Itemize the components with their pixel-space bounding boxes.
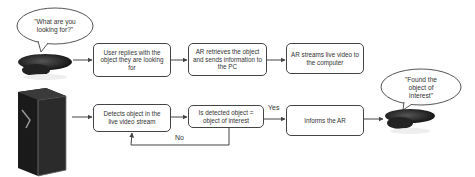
- step-decision: Is detected object = object of interest: [188, 105, 264, 128]
- step-ar-retrieves: AR retrieves the object and sends inform…: [188, 43, 267, 76]
- bubble-text-found: "Found the object of interest": [396, 76, 446, 100]
- ar-headset-icon: [18, 54, 72, 80]
- edge-label-yes: Yes: [268, 104, 279, 111]
- ar-headset-icon: [385, 109, 435, 134]
- step-detects-object: Detects object in the live video stream: [93, 104, 171, 132]
- step-informs-ar: Informs the AR: [286, 105, 364, 136]
- edge-label-no: No: [175, 134, 184, 141]
- step-user-replies: User replies with the object they are lo…: [93, 43, 171, 77]
- pc-tower-icon: [18, 88, 66, 176]
- bubble-text-question: "What are you looking for?": [25, 18, 85, 34]
- step-ar-streams: AR streams live video to the computer: [286, 43, 364, 74]
- flow-diagram: "What are you looking for?" "Found the o…: [0, 0, 475, 177]
